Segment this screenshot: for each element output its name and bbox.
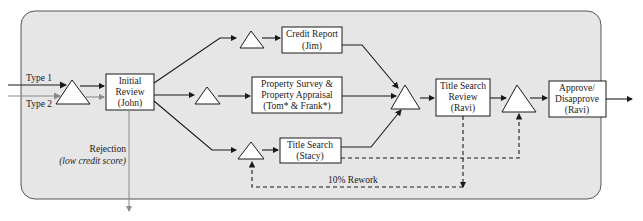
- svg-text:Review: Review: [448, 92, 477, 102]
- activity-title-search: Title Search (Stacy): [280, 138, 341, 163]
- svg-text:Title Search: Title Search: [287, 140, 333, 150]
- svg-text:(Stacy): (Stacy): [296, 151, 323, 162]
- process-flow-diagram: Type 1 Type 2 Initial Review (John) Reje…: [0, 0, 643, 221]
- type2-label: Type 2: [26, 99, 52, 109]
- activity-property: Property Survey & Property Appraisal (To…: [252, 77, 342, 113]
- rejection-reason: (low credit score): [59, 156, 126, 167]
- svg-text:Property Appraisal: Property Appraisal: [261, 90, 333, 100]
- svg-text:Initial: Initial: [119, 76, 142, 86]
- svg-text:Disapprove: Disapprove: [555, 94, 599, 104]
- svg-text:(John): (John): [118, 98, 142, 109]
- svg-text:Title Search: Title Search: [440, 81, 486, 91]
- activity-credit-report: Credit Report (Jim): [282, 27, 342, 53]
- activity-title-review: Title Search Review (Ravi): [436, 79, 490, 116]
- svg-text:Property Survey &: Property Survey &: [261, 79, 333, 89]
- svg-text:Review: Review: [115, 87, 144, 97]
- rework-label: 10% Rework: [328, 175, 378, 185]
- activity-approve-disapprove: Approve/ Disapprove (Ravi): [549, 81, 606, 117]
- type1-label: Type 1: [26, 73, 52, 83]
- svg-text:(Ravi): (Ravi): [565, 105, 589, 116]
- svg-text:(Ravi): (Ravi): [451, 103, 475, 114]
- rejection-label: Rejection: [90, 144, 127, 154]
- svg-text:Credit Report: Credit Report: [286, 29, 338, 39]
- activity-initial-review: Initial Review (John): [106, 74, 154, 110]
- svg-text:Approve/: Approve/: [559, 83, 595, 93]
- svg-text:(Jim): (Jim): [302, 41, 322, 52]
- svg-text:(Tom* & Frank*): (Tom* & Frank*): [263, 101, 330, 112]
